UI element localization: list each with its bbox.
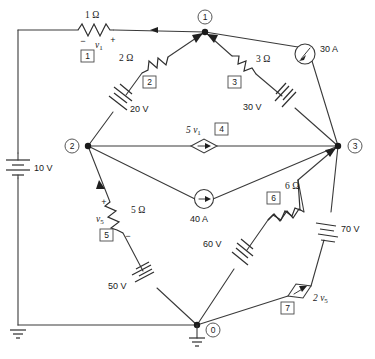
- wire-40a-to-n3: [213, 146, 338, 199]
- node-dot: [202, 29, 208, 35]
- source-60v[interactable]: 60 V: [203, 239, 253, 265]
- source-10v[interactable]: 10 V: [6, 153, 53, 178]
- battery-long-plate: [109, 96, 127, 110]
- node-dot: [335, 143, 341, 149]
- battery-short-plate: [136, 262, 149, 269]
- element-1-plus-sign: +: [110, 35, 115, 45]
- element-2-value: 2 Ω: [119, 53, 133, 63]
- element-5-resistor-5ohm[interactable]: 5 Ω + − v5 5: [96, 197, 145, 241]
- battery-long-plate: [318, 234, 338, 237]
- element-4-box-number: 4: [219, 124, 224, 134]
- element-1-resistor-1ohm[interactable]: 1 Ω − + v1 1: [78, 10, 116, 62]
- source-60v-label: 60 V: [203, 239, 222, 249]
- wire-30v-to-r3: [256, 74, 282, 96]
- element-3-resistor-3ohm[interactable]: 3 Ω 3: [228, 54, 270, 88]
- node-2-label: 2: [70, 141, 75, 151]
- wire-60v-to-r6: [247, 220, 268, 250]
- element-5-variable: v5: [96, 214, 104, 226]
- element-2-resistor-2ohm[interactable]: 2 Ω 2: [119, 53, 168, 88]
- resistor-zigzag: [78, 24, 114, 36]
- resistor-zigzag: [142, 57, 168, 73]
- wire-dep7-to-70v: [311, 240, 324, 286]
- element-4-dependent-current-source[interactable]: 5 v1 4: [186, 123, 228, 153]
- node-0-label: 0: [211, 325, 216, 335]
- element-7-dependent-current-source[interactable]: 2 v5 7: [281, 284, 328, 314]
- wire-n2-to-20v: [88, 112, 113, 146]
- node-1-label: 1: [203, 12, 208, 22]
- element-5-value: 5 Ω: [131, 205, 145, 215]
- source-30a-label: 30 A: [320, 44, 338, 54]
- battery-long-plate: [114, 87, 132, 101]
- element-5-minus-sign: −: [125, 231, 130, 241]
- wire-n2-to-40a: [88, 146, 195, 199]
- element-3-value: 3 Ω: [256, 54, 270, 64]
- element-7-value: 2 v5: [313, 293, 328, 305]
- element-6-box-number: 6: [271, 193, 276, 203]
- current-arrow-top: [150, 27, 158, 33]
- element-2-box-number: 2: [147, 77, 152, 87]
- source-40a[interactable]: 40 A: [190, 190, 214, 225]
- element-3-box-number: 3: [232, 77, 237, 87]
- circuit-diagram: 10 V 1 Ω − + v1 1 20 V 2 Ω 2: [0, 0, 375, 359]
- wire-n0-to-60v: [197, 269, 234, 325]
- wire-n2-to-r5: [88, 146, 110, 202]
- source-30v[interactable]: 30 V: [243, 83, 296, 112]
- source-70v-label: 70 V: [341, 224, 360, 234]
- element-4-value: 5 v1: [186, 125, 201, 137]
- resistor-zigzag: [105, 202, 123, 233]
- battery-long-plate: [316, 223, 336, 226]
- node-2[interactable]: 2: [65, 139, 91, 153]
- element-5-plus-sign: +: [101, 197, 106, 207]
- source-30a[interactable]: 30 A: [295, 44, 338, 64]
- source-40a-label: 40 A: [190, 214, 208, 224]
- battery-long-plate: [232, 252, 248, 265]
- battery-short-plate: [320, 229, 334, 231]
- ground-icon-left: [10, 330, 26, 338]
- element-6-value: 6 Ω: [285, 181, 299, 191]
- element-1-box-number: 1: [85, 51, 90, 61]
- source-50v[interactable]: 50 V: [108, 262, 154, 291]
- element-1-value: 1 Ω: [85, 10, 99, 20]
- source-30v-label: 30 V: [243, 102, 262, 112]
- wire-70v-to-n3: [331, 146, 338, 212]
- node-dot: [85, 143, 91, 149]
- source-20v-label: 20 V: [130, 104, 149, 114]
- resistor-zigzag: [268, 209, 304, 221]
- element-1-minus-sign: −: [80, 36, 85, 46]
- source-10v-label: 10 V: [34, 163, 53, 173]
- ground-icon: [189, 325, 205, 346]
- element-5-box-number: 5: [104, 230, 109, 240]
- wire-50v-to-n0: [157, 288, 197, 325]
- source-50v-label: 50 V: [108, 281, 127, 291]
- source-70v[interactable]: 70 V: [316, 223, 360, 242]
- source-20v[interactable]: 20 V: [109, 84, 149, 114]
- wire-30a-to-n3: [312, 61, 338, 146]
- wire-n3-to-30v: [295, 108, 338, 146]
- node-3[interactable]: 3: [335, 139, 362, 153]
- wire-top-right: [114, 30, 205, 32]
- current-arrow-r2: [192, 33, 203, 43]
- element-1-variable: v1: [95, 40, 103, 52]
- wire-n0-to-dep7: [197, 296, 288, 325]
- battery-short-plate: [276, 83, 286, 94]
- node-3-label: 3: [353, 141, 358, 151]
- resistor-zigzag: [232, 56, 256, 74]
- element-6-resistor-6ohm[interactable]: 6 Ω 6: [267, 180, 304, 221]
- element-7-box-number: 7: [285, 303, 290, 313]
